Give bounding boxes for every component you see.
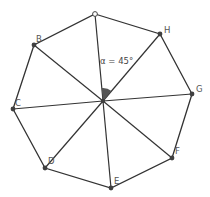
vertex-point-open	[93, 12, 98, 17]
spoke-line	[103, 34, 160, 101]
vertex-label-g: G	[196, 84, 203, 94]
spoke-line	[103, 101, 172, 158]
spoke-line	[13, 101, 103, 109]
vertex-point-h	[158, 32, 163, 37]
vertex-point-g	[190, 92, 195, 97]
spoke-line	[103, 101, 111, 188]
vertex-label-e: E	[114, 176, 119, 186]
vertex-label-b: B	[36, 34, 42, 44]
vertex-label-c: C	[15, 98, 21, 108]
vertex-label-f: F	[175, 146, 180, 156]
vertex-point-e	[109, 186, 114, 191]
center-point	[101, 99, 105, 103]
vertex-label-d: D	[48, 156, 55, 166]
spoke-line	[34, 45, 103, 101]
vertex-label-h: H	[164, 25, 170, 35]
octagon-diagram: HGFEDCB α = 45°	[0, 0, 210, 197]
vertex-point-d	[43, 166, 48, 171]
vertex-point-f	[170, 156, 175, 161]
spoke-line	[103, 94, 192, 101]
angle-label: α = 45°	[100, 56, 133, 66]
